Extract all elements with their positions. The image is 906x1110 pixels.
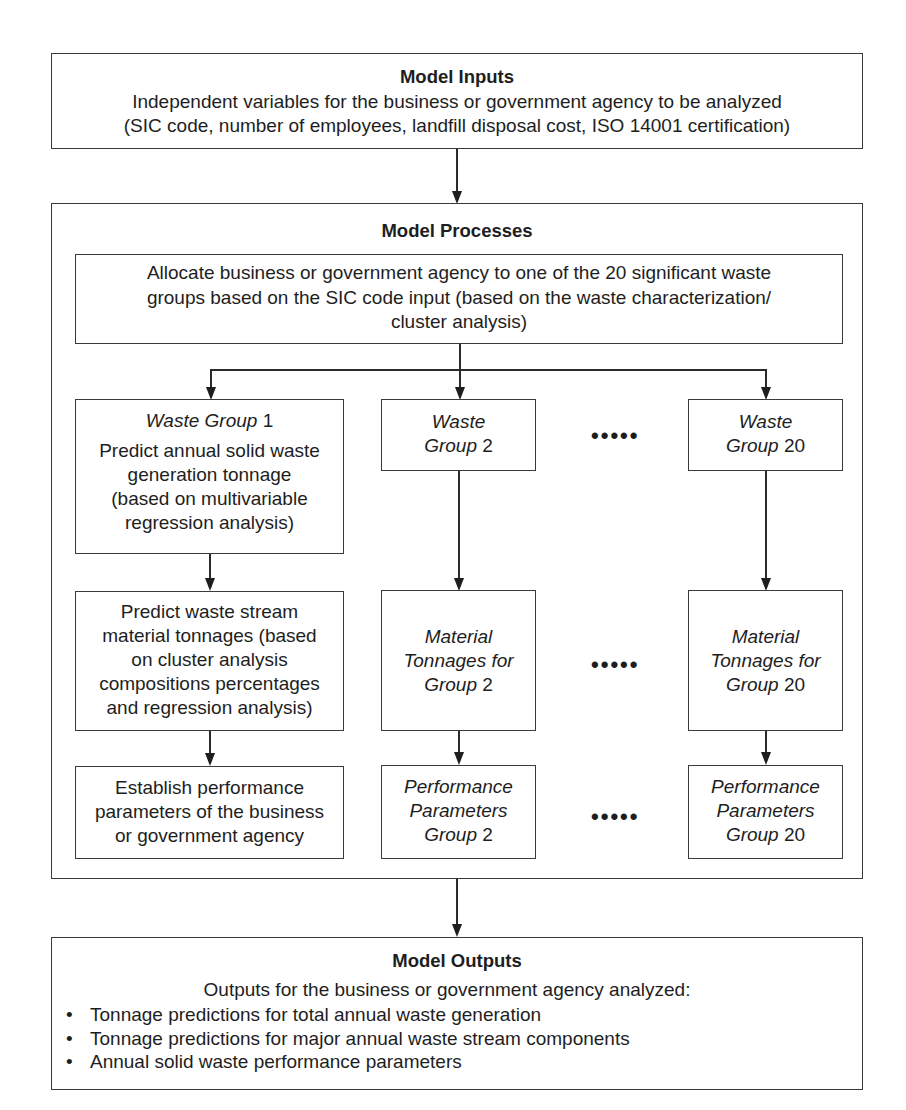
connector-g2-material-to-performance	[458, 731, 460, 754]
connector-processes-to-outputs	[456, 879, 458, 925]
connector-g2-to-material	[458, 471, 460, 580]
waste-group-20-line1: Waste	[689, 410, 842, 434]
waste-group-1-box: Waste Group 1 Predict annual solid waste…	[75, 399, 344, 554]
allocate-line3: cluster analysis)	[76, 310, 842, 334]
predict-material-line5: and regression analysis)	[76, 696, 343, 720]
material-g2-line1: Material	[382, 625, 535, 649]
predict-material-box: Predict waste stream material tonnages (…	[75, 591, 344, 731]
waste-group-20-line2: Group 20	[689, 434, 842, 458]
predict-annual-line2: generation tonnage	[76, 463, 343, 487]
material-g20-line1: Material	[689, 625, 842, 649]
model-inputs-title: Model Inputs	[52, 65, 862, 89]
material-g20-line2: Tonnages for	[689, 649, 842, 673]
ellipsis-dots-row3: •••••	[591, 812, 640, 822]
performance-g2-line3: Group 2	[382, 823, 535, 847]
output-bullet-performance-parameters: Annual solid waste performance parameter…	[66, 1050, 630, 1074]
material-tonnages-group-2-box: Material Tonnages for Group 2	[381, 590, 536, 731]
arrowhead-icon	[761, 752, 771, 765]
material-g2-line3: Group 2	[382, 673, 535, 697]
material-g2-line2: Tonnages for	[382, 649, 535, 673]
model-outputs-list: Tonnage predictions for total annual was…	[66, 1003, 630, 1074]
material-g20-number: 20	[784, 674, 805, 695]
predict-annual-line1: Predict annual solid waste	[76, 439, 343, 463]
waste-group-1-label: Waste Group	[146, 410, 258, 431]
waste-group-2-label: Group	[424, 435, 477, 456]
predict-annual-line3: (based on multivariable	[76, 487, 343, 511]
establish-line1: Establish performance	[76, 776, 343, 800]
waste-group-1-title: Waste Group 1	[76, 409, 343, 433]
model-outputs-title: Model Outputs	[52, 949, 862, 973]
connector-inputs-to-processes	[456, 149, 458, 193]
ellipsis-dots-row1: •••••	[591, 431, 640, 441]
performance-parameters-group-20-box: Performance Parameters Group 20	[688, 765, 843, 859]
waste-group-2-line1: Waste	[382, 410, 535, 434]
output-bullet-stream-components: Tonnage predictions for major annual was…	[66, 1027, 630, 1051]
performance-g2-line2: Parameters	[382, 799, 535, 823]
performance-g20-line3: Group 20	[689, 823, 842, 847]
performance-g20-group-label: Group	[726, 824, 779, 845]
predict-material-line3: on cluster analysis	[76, 648, 343, 672]
model-outputs-intro: Outputs for the business or government a…	[32, 978, 862, 1002]
arrowhead-icon	[205, 578, 215, 591]
connector-to-group1	[210, 369, 212, 389]
output-bullet-total-generation: Tonnage predictions for total annual was…	[66, 1003, 630, 1027]
waste-group-2-number: 2	[482, 435, 493, 456]
performance-g20-number: 20	[784, 824, 805, 845]
waste-group-2-box: Waste Group 2	[381, 399, 536, 471]
predict-material-line1: Predict waste stream	[76, 600, 343, 624]
waste-group-20-box: Waste Group 20	[688, 399, 843, 471]
allocate-line2: groups based on the SIC code input (base…	[76, 286, 842, 310]
allocate-box: Allocate business or government agency t…	[75, 254, 843, 344]
material-g20-group-label: Group	[726, 674, 779, 695]
performance-g20-line1: Performance	[689, 775, 842, 799]
arrowhead-icon	[205, 753, 215, 766]
performance-g2-number: 2	[482, 824, 493, 845]
predict-material-line2: material tonnages (based	[76, 624, 343, 648]
model-processes-title: Model Processes	[52, 219, 862, 243]
connector-g20-material-to-performance	[765, 731, 767, 754]
model-outputs-box: Model Outputs Outputs for the business o…	[51, 937, 863, 1090]
connector-allocate-down	[459, 344, 461, 389]
model-inputs-line2: (SIC code, number of employees, landfill…	[52, 114, 862, 138]
material-g20-line3: Group 20	[689, 673, 842, 697]
performance-parameters-group-2-box: Performance Parameters Group 2	[381, 765, 536, 859]
material-g2-number: 2	[482, 674, 493, 695]
waste-group-1-number: 1	[263, 410, 274, 431]
establish-line2: parameters of the business	[76, 800, 343, 824]
model-inputs-line1: Independent variables for the business o…	[52, 90, 862, 114]
performance-g20-line2: Parameters	[689, 799, 842, 823]
material-tonnages-group-20-box: Material Tonnages for Group 20	[688, 590, 843, 731]
establish-performance-box: Establish performance parameters of the …	[75, 766, 344, 859]
predict-annual-line4: regression analysis)	[76, 511, 343, 535]
ellipsis-dots-row2: •••••	[591, 660, 640, 670]
connector-g1-annual-to-material	[209, 554, 211, 580]
arrowhead-icon	[454, 752, 464, 765]
material-g2-group-label: Group	[424, 674, 477, 695]
predict-material-line4: compositions percentages	[76, 672, 343, 696]
performance-g2-line1: Performance	[382, 775, 535, 799]
connector-branch-horizontal	[210, 369, 766, 371]
waste-group-2-line2: Group 2	[382, 434, 535, 458]
connector-to-group20	[765, 369, 767, 389]
establish-line3: or government agency	[76, 824, 343, 848]
model-inputs-box: Model Inputs Independent variables for t…	[51, 53, 863, 149]
allocate-line1: Allocate business or government agency t…	[76, 261, 842, 285]
waste-group-20-label: Group	[726, 435, 779, 456]
connector-g1-material-to-performance	[209, 731, 211, 755]
arrowhead-icon	[452, 924, 462, 937]
performance-g2-group-label: Group	[424, 824, 477, 845]
connector-g20-to-material	[765, 471, 767, 580]
waste-group-20-number: 20	[784, 435, 805, 456]
